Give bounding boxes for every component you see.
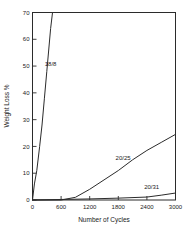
x-tick-label: 2400: [140, 204, 154, 210]
y-tick-label: 60: [23, 36, 30, 42]
x-tick-label: 3000: [169, 204, 183, 210]
x-tick-label: 1200: [83, 204, 97, 210]
x-tick-label: 600: [56, 204, 67, 210]
x-axis-title: Number of Cycles: [78, 216, 130, 224]
weight-loss-vs-cycles-chart: 010203040506070 06001200180024003000 18/…: [0, 0, 189, 227]
series-label-18-8: 18/8: [45, 61, 57, 67]
y-tick-label: 10: [23, 170, 30, 176]
chart-container: 010203040506070 06001200180024003000 18/…: [0, 0, 189, 227]
y-tick-label: 20: [23, 144, 30, 150]
y-tick-label: 50: [23, 63, 30, 69]
y-tick-label: 30: [23, 117, 30, 123]
y-tick-label: 40: [23, 90, 30, 96]
chart-background: [0, 0, 189, 227]
y-axis-title: Weight Loss %: [3, 84, 11, 127]
x-tick-label: 1800: [112, 204, 126, 210]
y-tick-label: 70: [23, 10, 30, 16]
series-label-20-25: 20/25: [116, 155, 132, 161]
series-label-20-31: 20/31: [144, 184, 160, 190]
